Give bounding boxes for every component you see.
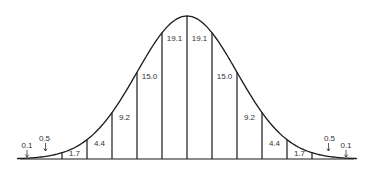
band-label: 19.1	[167, 34, 183, 43]
arrow-icon	[25, 150, 28, 157]
band-label: 15.0	[217, 72, 233, 81]
band-label: 9.2	[244, 113, 256, 122]
band-label: 4.4	[269, 139, 281, 148]
band-label: 1.7	[69, 149, 81, 158]
band-dividers	[62, 16, 312, 159]
arrow-icon	[344, 150, 347, 157]
tail-label: 0.1	[21, 141, 33, 150]
band-label: 1.7	[294, 149, 306, 158]
normal-distribution-chart: 0.51.74.49.215.019.119.115.09.24.41.70.5…	[0, 0, 373, 173]
band-label: 9.2	[119, 113, 131, 122]
tail-label: 0.1	[340, 141, 352, 150]
band-label-arrowed: 0.5	[324, 134, 336, 143]
band-label: 19.1	[192, 34, 208, 43]
arrow-icon	[327, 143, 330, 151]
band-label: 15.0	[142, 72, 158, 81]
band-label: 4.4	[94, 139, 106, 148]
arrow-icon	[44, 143, 47, 151]
band-label-arrowed: 0.5	[39, 134, 51, 143]
